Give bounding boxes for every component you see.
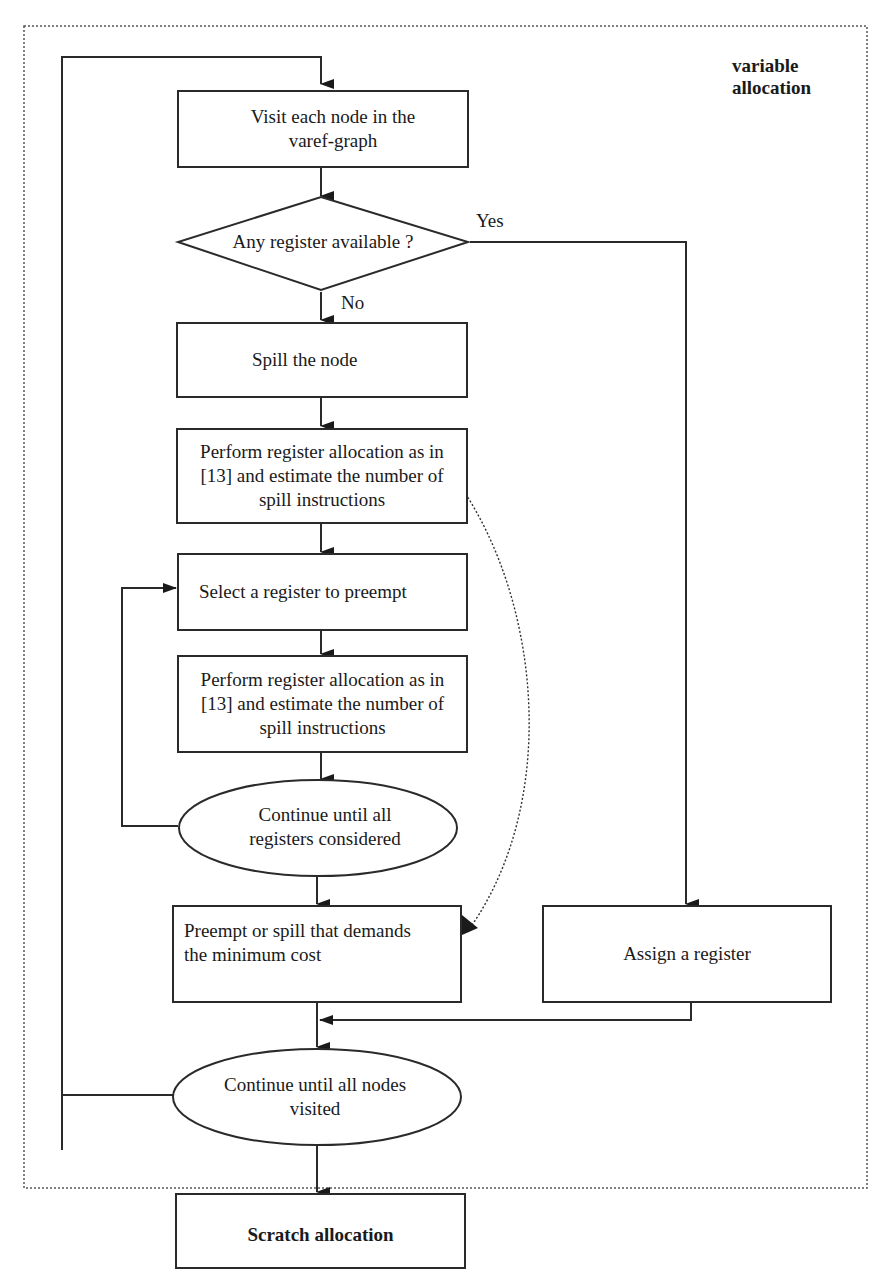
decision-label: Any register available ? <box>233 230 414 254</box>
perform-allocation-node-2: Perform register allocation as in [13] a… <box>177 655 468 753</box>
preempt-label: Preempt or spill that demands the minimu… <box>184 919 424 967</box>
preempt-or-spill-node: Preempt or spill that demands the minimu… <box>172 905 462 1003</box>
continue-registers-node: Continue until all registers considered <box>240 802 410 852</box>
decision-node: Any register available ? <box>178 228 468 256</box>
scratch-label: Scratch allocation <box>247 1223 393 1247</box>
visit-label: Visit each node in the varef-graph <box>238 105 428 153</box>
no-label: No <box>341 292 364 314</box>
region-title: variable allocation <box>732 55 882 99</box>
continue-nodes-node: Continue until all nodes visited <box>220 1072 410 1122</box>
spill-label: Spill the node <box>252 348 358 372</box>
assign-register-node: Assign a register <box>542 905 832 1003</box>
visit-node: Visit each node in the varef-graph <box>177 90 469 168</box>
spill-node: Spill the node <box>176 322 468 398</box>
perform-label-1: Perform register allocation as in [13] a… <box>197 440 447 512</box>
continue-registers-label: Continue until all registers considered <box>240 803 410 851</box>
scratch-allocation-node: Scratch allocation <box>175 1193 466 1269</box>
continue-nodes-label: Continue until all nodes visited <box>220 1073 410 1121</box>
perform-label-2: Perform register allocation as in [13] a… <box>198 668 448 740</box>
yes-label: Yes <box>476 210 504 232</box>
select-label: Select a register to preempt <box>199 580 407 604</box>
select-register-node: Select a register to preempt <box>177 553 468 631</box>
flowchart-connectors <box>0 0 882 1283</box>
perform-allocation-node-1: Perform register allocation as in [13] a… <box>176 428 468 524</box>
assign-label: Assign a register <box>623 942 751 966</box>
